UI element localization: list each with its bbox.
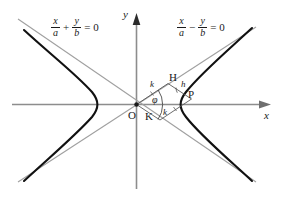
segment-label-k-upper: k [150, 80, 154, 89]
numerator-x-right: x [177, 16, 185, 27]
x-axis-label: x [264, 110, 269, 121]
operator-left: + [63, 21, 69, 33]
fraction-x-over-a-right: x a [177, 16, 186, 38]
origin-point-marker [134, 102, 138, 106]
segment-label-k-lower: k [163, 108, 167, 117]
operator-right: − [189, 21, 195, 33]
denominator-a-left: a [51, 27, 60, 39]
denominator-b-right: b [198, 27, 207, 39]
point-label-K: K [145, 111, 153, 122]
hyperbola-diagram-svg [0, 0, 284, 202]
y-axis-label: y [123, 9, 128, 20]
fraction-x-over-a-left: x a [51, 16, 60, 38]
hyperbola-left-branch [24, 30, 97, 181]
fraction-y-over-b-left: y b [72, 16, 81, 38]
numerator-x-left: x [51, 16, 59, 27]
numerator-y-right: y [198, 16, 206, 27]
rhs-right: = 0 [210, 21, 224, 33]
origin-label: O [128, 110, 136, 121]
x-axis-arrow-icon [259, 101, 271, 109]
denominator-a-right: a [177, 27, 186, 39]
rhs-left: = 0 [84, 21, 98, 33]
denominator-b-left: b [72, 27, 81, 39]
equation-right-asymptote: x a − y b = 0 [176, 16, 225, 38]
point-label-H: H [169, 72, 177, 83]
numerator-y-left: y [72, 16, 80, 27]
fraction-y-over-b-right: y b [198, 16, 207, 38]
point-label-P: P [188, 89, 194, 100]
segment-label-h: h [181, 80, 186, 89]
y-axis-arrow-icon [133, 13, 141, 25]
angle-label-phi: φ [152, 95, 158, 105]
hyperbola-figure: y x O H K P k k h φ x a + y b = 0 x a − [0, 0, 284, 202]
equation-left-asymptote: x a + y b = 0 [50, 16, 99, 38]
angle-arc-at-H [176, 88, 177, 93]
